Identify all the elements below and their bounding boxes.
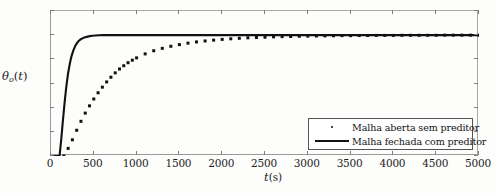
data-point xyxy=(272,35,275,38)
data-point xyxy=(426,34,429,37)
data-point xyxy=(92,97,95,100)
x-tick-mark xyxy=(264,151,265,155)
data-point xyxy=(383,34,386,37)
x-tick-label: 3500 xyxy=(337,157,363,169)
x-tick-label: 1000 xyxy=(123,157,149,169)
data-point xyxy=(161,47,164,50)
chart-legend: Malha aberta sem preditor Malha fechada … xyxy=(308,118,473,150)
data-point xyxy=(195,40,198,43)
data-point xyxy=(105,80,108,83)
x-tick-label: 4000 xyxy=(379,157,405,169)
data-point xyxy=(349,34,352,37)
y-tick-mark xyxy=(50,34,54,35)
x-tick-mark-top xyxy=(178,10,179,14)
data-point xyxy=(229,37,232,40)
x-tick-mark xyxy=(392,151,393,155)
x-tick-mark xyxy=(435,151,436,155)
x-tick-mark xyxy=(478,151,479,155)
data-point xyxy=(109,76,112,79)
data-point xyxy=(246,36,249,39)
x-tick-mark-top xyxy=(93,10,94,14)
y-axis-title: θo(t) xyxy=(2,69,27,84)
x-tick-mark xyxy=(221,151,222,155)
data-point xyxy=(67,147,70,150)
data-point xyxy=(452,34,455,37)
y-tick-mark-right xyxy=(474,10,478,11)
x-tick-mark-top xyxy=(435,10,436,14)
x-tick-label: 2000 xyxy=(208,157,234,169)
data-point xyxy=(118,68,121,71)
y-tick-mark xyxy=(50,155,54,156)
y-tick-mark-right xyxy=(474,83,478,84)
y-tick-mark-right xyxy=(474,155,478,156)
x-tick-label: 3000 xyxy=(294,157,320,169)
data-point xyxy=(204,39,207,42)
x-tick-mark-top xyxy=(307,10,308,14)
data-point xyxy=(409,34,412,37)
x-tick-mark xyxy=(136,151,137,155)
y-tick-mark xyxy=(50,10,54,11)
x-tick-label: 0 xyxy=(47,157,53,169)
data-point xyxy=(75,129,78,132)
x-tick-mark xyxy=(178,151,179,155)
data-point xyxy=(315,35,318,38)
data-point xyxy=(358,34,361,37)
data-point xyxy=(135,56,138,59)
x-tick-mark xyxy=(307,151,308,155)
data-point xyxy=(79,120,82,123)
y-tick-mark-right xyxy=(474,107,478,108)
y-tick-mark xyxy=(50,131,54,132)
x-tick-mark xyxy=(93,151,94,155)
data-point xyxy=(88,104,91,107)
legend-dot-marker-icon xyxy=(312,126,352,129)
y-tick-mark xyxy=(50,83,54,84)
data-point xyxy=(469,34,472,37)
x-tick-mark-top xyxy=(264,10,265,14)
data-point xyxy=(341,34,344,37)
x-axis-title: t(s) xyxy=(264,170,282,184)
x-tick-mark-top xyxy=(478,10,479,14)
x-tick-mark-top xyxy=(136,10,137,14)
x-tick-label: 500 xyxy=(83,157,102,169)
data-point xyxy=(212,39,215,42)
data-point xyxy=(366,34,369,37)
y-tick-mark-right xyxy=(474,34,478,35)
data-point xyxy=(178,43,181,46)
y-tick-mark xyxy=(50,107,54,108)
data-point xyxy=(122,64,125,67)
legend-label-open-loop: Malha aberta sem preditor xyxy=(352,122,479,133)
data-point xyxy=(392,34,395,37)
data-point xyxy=(323,34,326,37)
y-tick-mark xyxy=(50,58,54,59)
data-point xyxy=(97,91,100,94)
legend-label-closed-loop: Malha fechada com preditor xyxy=(352,136,486,147)
data-point xyxy=(169,45,172,48)
data-point xyxy=(264,36,267,39)
data-point xyxy=(332,34,335,37)
data-point xyxy=(127,61,130,64)
x-tick-mark-top xyxy=(221,10,222,14)
y-axis-title-symbol: θ xyxy=(2,69,9,83)
data-point xyxy=(306,35,309,38)
data-point xyxy=(238,37,241,40)
x-tick-label: 4500 xyxy=(422,157,448,169)
x-tick-mark-top xyxy=(392,10,393,14)
legend-entry-open-loop: Malha aberta sem preditor xyxy=(312,120,468,134)
data-point xyxy=(255,36,258,39)
data-point xyxy=(62,155,65,157)
data-point xyxy=(298,35,301,38)
data-point xyxy=(221,38,224,41)
x-tick-label: 5000 xyxy=(465,157,491,169)
data-point xyxy=(400,34,403,37)
y-tick-mark-right xyxy=(474,58,478,59)
x-tick-mark xyxy=(350,151,351,155)
x-tick-mark-top xyxy=(350,10,351,14)
data-point xyxy=(114,71,117,74)
data-point xyxy=(281,35,284,38)
chart-figure: θo(t) t(s) 05001000150020002500300035004… xyxy=(0,0,496,193)
data-point xyxy=(443,34,446,37)
x-axis-title-unit: (s) xyxy=(269,171,283,183)
data-point xyxy=(152,49,155,52)
legend-line-marker-icon xyxy=(312,140,352,143)
data-point xyxy=(144,52,147,55)
